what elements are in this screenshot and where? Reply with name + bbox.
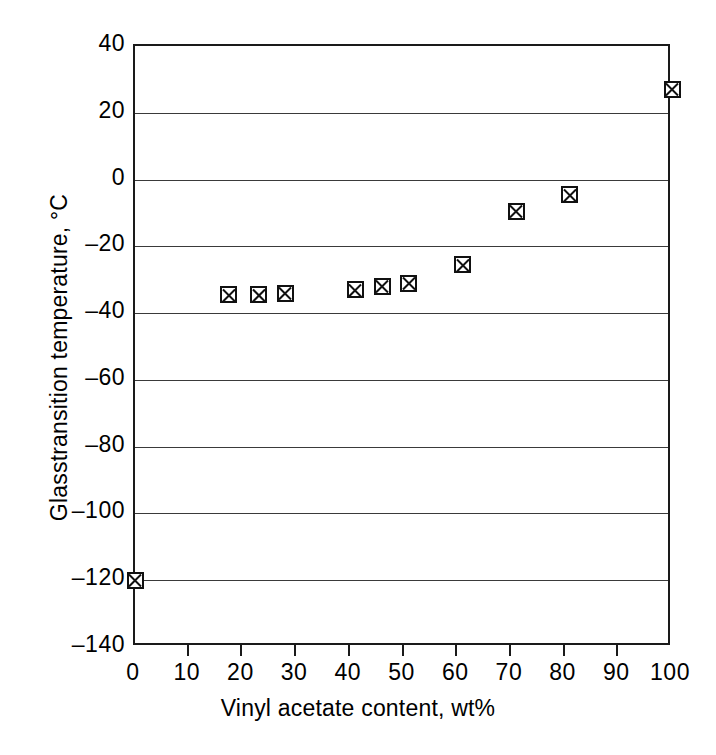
data-point-marker bbox=[561, 186, 578, 203]
x-tick-mark bbox=[187, 645, 189, 656]
x-tick-label: 30 bbox=[264, 659, 324, 685]
gridline-y bbox=[135, 246, 668, 247]
x-tick-label: 80 bbox=[533, 659, 593, 685]
data-point-marker bbox=[220, 286, 237, 303]
x-tick-label: 20 bbox=[210, 659, 270, 685]
data-point-marker bbox=[347, 281, 364, 298]
data-point-marker bbox=[400, 275, 417, 292]
data-point-marker bbox=[250, 286, 267, 303]
x-tick-mark bbox=[455, 645, 457, 656]
y-tick-label: 20 bbox=[21, 99, 125, 122]
x-tick-label: 40 bbox=[318, 659, 378, 685]
y-tick-label: 40 bbox=[21, 32, 125, 55]
y-tick-label: –120 bbox=[21, 566, 125, 589]
x-axis-title: Vinyl acetate content, wt% bbox=[0, 695, 716, 722]
y-tick-label: 0 bbox=[21, 166, 125, 189]
gridline-y bbox=[135, 513, 668, 514]
data-point-marker bbox=[664, 81, 681, 98]
x-tick-label: 10 bbox=[157, 659, 217, 685]
y-tick-label: –100 bbox=[21, 499, 125, 522]
gridline-y bbox=[135, 380, 668, 381]
x-tick-mark bbox=[348, 645, 350, 656]
x-tick-mark bbox=[509, 645, 511, 656]
y-axis-title: Glasstransition temperature, °C bbox=[46, 123, 73, 593]
x-tick-mark bbox=[616, 645, 618, 656]
data-point-marker bbox=[508, 203, 525, 220]
x-tick-mark bbox=[294, 645, 296, 656]
data-point-marker bbox=[374, 278, 391, 295]
y-tick-label: –20 bbox=[21, 232, 125, 255]
data-point-marker bbox=[277, 285, 294, 302]
x-tick-label: 60 bbox=[425, 659, 485, 685]
gridline-y bbox=[135, 313, 668, 314]
gridline-y bbox=[135, 180, 668, 181]
y-tick-label: –80 bbox=[21, 433, 125, 456]
gridline-y bbox=[135, 447, 668, 448]
y-tick-label: –140 bbox=[21, 633, 125, 656]
x-tick-label: 100 bbox=[640, 659, 700, 685]
y-tick-label: –40 bbox=[21, 299, 125, 322]
plot-area bbox=[133, 44, 670, 645]
x-tick-mark bbox=[563, 645, 565, 656]
gridline-y bbox=[135, 580, 668, 581]
x-tick-label: 70 bbox=[479, 659, 539, 685]
x-tick-mark bbox=[240, 645, 242, 656]
x-tick-label: 50 bbox=[372, 659, 432, 685]
x-tick-label: 90 bbox=[586, 659, 646, 685]
data-point-marker bbox=[127, 572, 144, 589]
x-tick-mark bbox=[402, 645, 404, 656]
x-tick-label: 0 bbox=[103, 659, 163, 685]
data-point-marker bbox=[454, 256, 471, 273]
chart-figure: 40200–20–40–60–80–100–120–140 0102030405… bbox=[0, 0, 716, 755]
gridline-y bbox=[135, 113, 668, 114]
y-tick-label: –60 bbox=[21, 366, 125, 389]
